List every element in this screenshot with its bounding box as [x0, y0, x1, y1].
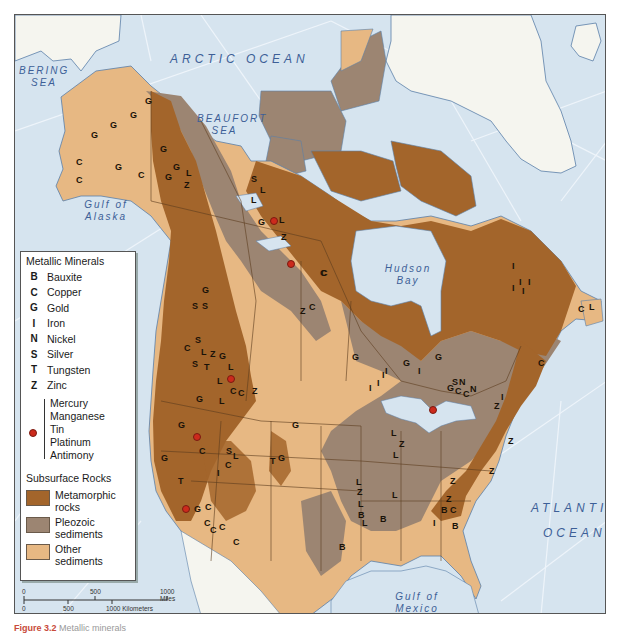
legend-symbol: N: [21, 333, 47, 344]
mineral-symbol-g: G: [403, 359, 410, 368]
mineral-symbol-c: C: [233, 538, 240, 547]
legend-label: Iron: [47, 317, 65, 329]
mineral-symbol-b: B: [452, 522, 459, 531]
legend-label: Copper: [47, 286, 81, 298]
mineral-symbol-z: Z: [399, 440, 405, 449]
mineral-symbol-l: L: [251, 196, 257, 205]
mineral-symbol-l: L: [219, 397, 225, 406]
mineral-symbol-c: C: [450, 506, 457, 515]
legend-symbol: G: [21, 302, 47, 313]
mineral-symbol-z: Z: [489, 467, 495, 476]
mineral-symbol-g: G: [130, 111, 137, 120]
mineral-symbol-i: I: [522, 287, 525, 296]
mineral-symbol-g: G: [145, 97, 152, 106]
other-mineral-dot-icon: [287, 260, 295, 268]
mineral-symbol-l: L: [356, 478, 362, 487]
mineral-symbol-l: L: [358, 500, 364, 509]
mineral-symbol-g: G: [160, 145, 167, 154]
mineral-symbol-i: I: [512, 284, 515, 293]
mineral-symbol-z: Z: [494, 402, 500, 411]
red-dot-icon: [29, 429, 37, 437]
scale-km-500: 500: [63, 605, 74, 612]
mineral-symbol-g: G: [258, 218, 265, 227]
scale-miles-0: 0: [22, 588, 26, 595]
mineral-symbol-z: Z: [281, 233, 287, 242]
mineral-symbol-c: C: [238, 389, 245, 398]
legend-item-nickel: NNickel: [21, 331, 135, 347]
rock-label: Pleozoicsediments: [55, 516, 103, 540]
mineral-symbol-i: I: [433, 519, 436, 528]
ocean-label: OCEAN: [543, 527, 606, 539]
legend-item-silver: SSilver: [21, 347, 135, 363]
mineral-symbol-i: I: [385, 367, 388, 376]
mineral-symbol-g: G: [219, 352, 226, 361]
rock-label: Metamorphicrocks: [55, 489, 116, 513]
bering-sea-label: BERING SEA: [19, 65, 69, 89]
mineral-symbol-z: Z: [300, 307, 306, 316]
mineral-symbol-s: S: [202, 302, 208, 311]
subsurface-rocks-title: Subsurface Rocks: [21, 462, 135, 487]
mineral-symbol-i: I: [418, 367, 421, 376]
mineral-symbol-c: C: [455, 387, 462, 396]
legend-label: Gold: [47, 302, 69, 314]
other-mineral-dot-icon: [182, 505, 190, 513]
color-swatch: [26, 544, 50, 560]
mineral-symbol-c: C: [309, 303, 316, 312]
scale-km-0: 0: [22, 605, 26, 612]
mineral-symbol-g: G: [278, 454, 285, 463]
mineral-symbol-g: G: [161, 454, 168, 463]
mineral-symbol-c: C: [199, 447, 206, 456]
beaufort-sea-label: BEAUFORT SEA: [197, 113, 252, 137]
legend-symbol: Z: [21, 380, 47, 391]
legend-symbol: T: [21, 364, 47, 375]
legend-label: Zinc: [47, 379, 67, 391]
scale-km-1000: 1000 Kilometers: [106, 605, 153, 612]
gulf-of-alaska-label: Gulf of Alaska: [81, 199, 131, 223]
legend-item-iron: IIron: [21, 316, 135, 332]
map-legend: Metallic Minerals BBauxiteCCopperGGoldII…: [20, 251, 136, 581]
legend-other-tin: Tin: [50, 423, 105, 436]
legend-symbol: S: [21, 349, 47, 360]
mineral-symbol-c: C: [538, 359, 545, 368]
mineral-symbol-c: C: [76, 176, 83, 185]
mineral-symbol-c: C: [463, 390, 470, 399]
subsurface-rocks-list: MetamorphicrocksPleozoicsedimentsOtherse…: [21, 489, 135, 567]
metallic-minerals-list: BBauxiteCCopperGGoldIIronNNickelSSilverT…: [21, 269, 135, 393]
metallic-minerals-title: Metallic Minerals: [21, 252, 135, 269]
legend-item-gold: GGold: [21, 300, 135, 316]
legend-other-platinum: Platinum: [50, 436, 105, 449]
mineral-symbol-i: I: [377, 379, 380, 388]
legend-rock-pleozoic: Pleozoicsediments: [21, 516, 135, 540]
mineral-symbol-i: I: [501, 393, 504, 402]
other-minerals-group: MercuryManganeseTinPlatinumAntimony: [21, 397, 135, 462]
arctic-ocean-label: ARCTIC OCEAN: [170, 53, 309, 65]
mineral-symbol-c: C: [219, 523, 226, 532]
other-mineral-dot-icon: [429, 406, 437, 414]
gulf-of-mexico-label: Gulf of Mexico: [387, 591, 447, 614]
mineral-symbol-z: Z: [184, 181, 190, 190]
mineral-symbol-b: B: [441, 506, 448, 515]
color-swatch: [26, 490, 50, 506]
legend-label: Nickel: [47, 333, 76, 345]
mineral-symbol-i: I: [528, 278, 531, 287]
legend-other-manganese: Manganese: [50, 410, 105, 423]
mineral-symbol-l: L: [201, 348, 207, 357]
mineral-symbol-s: S: [226, 447, 232, 456]
mineral-symbol-t: T: [178, 477, 184, 486]
mineral-symbol-t: T: [270, 457, 276, 466]
mineral-symbol-g: G: [110, 121, 117, 130]
legend-item-zinc: ZZinc: [21, 378, 135, 394]
mineral-symbol-l: L: [391, 429, 397, 438]
mineral-symbol-g: G: [178, 421, 185, 430]
color-swatch: [26, 517, 50, 533]
other-mineral-dot-icon: [193, 433, 201, 441]
mineral-symbol-c: C: [184, 344, 191, 353]
mineral-symbol-g: G: [435, 353, 442, 362]
mineral-symbol-l: L: [233, 452, 239, 461]
mineral-symbol-z: Z: [357, 488, 363, 497]
legend-label: Silver: [47, 348, 73, 360]
mineral-symbol-n: N: [470, 385, 477, 394]
mineral-symbol-g: G: [115, 163, 122, 172]
legend-symbol: B: [21, 271, 47, 282]
mineral-symbol-g: G: [91, 131, 98, 140]
